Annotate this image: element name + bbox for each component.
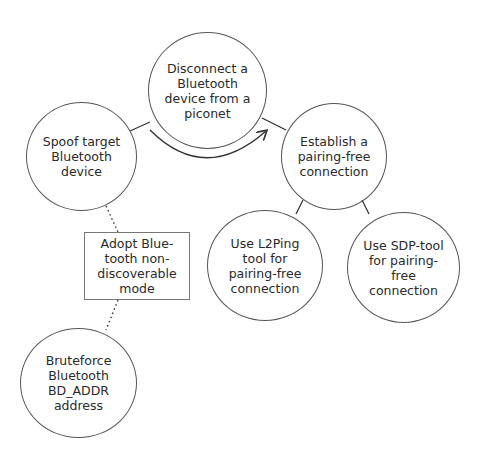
node-establish: Establish a pairing-free connection	[281, 103, 387, 210]
node-l2ping-label: Use L2Ping tool for pairing-free connect…	[217, 236, 313, 296]
edge-nondiscoverable-bruteforce	[106, 300, 118, 330]
node-bruteforce-label: Bruteforce Bluetooth BD_ADDR address	[35, 353, 123, 413]
edge-establish-sdp	[362, 200, 369, 214]
edge-disconnect-establish	[262, 118, 286, 130]
node-establish-label: Establish a pairing-free connection	[286, 134, 382, 179]
node-bruteforce: Bruteforce Bluetooth BD_ADDR address	[20, 328, 137, 438]
node-disconnect: Disconnect a Bluetooth device from a pic…	[148, 32, 267, 149]
node-spoof: Spoof target Bluetooth device	[26, 102, 137, 211]
edge-establish-l2ping	[296, 200, 303, 214]
node-nondiscoverable: Adopt Blue-tooth non-discoverable mode	[84, 232, 190, 300]
node-l2ping: Use L2Ping tool for pairing-free connect…	[207, 210, 323, 321]
node-sdp-label: Use SDP-tool for pairing-free connection	[356, 238, 452, 298]
edge-spoof-disconnect	[130, 122, 150, 131]
node-disconnect-label: Disconnect a Bluetooth device from a pic…	[157, 61, 259, 121]
node-nondiscoverable-label: Adopt Blue-tooth non-discoverable mode	[89, 236, 185, 296]
node-sdp: Use SDP-tool for pairing-free connection	[347, 212, 460, 323]
node-spoof-label: Spoof target Bluetooth device	[34, 134, 130, 179]
edge-spoof-nondiscoverable	[106, 206, 118, 232]
